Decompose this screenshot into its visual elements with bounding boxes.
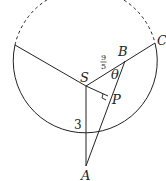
label-SA-length: 3 [74, 118, 82, 132]
segment-S-P [86, 86, 108, 96]
geometry-diagram: S B C P A θ 3 9 5 [0, 0, 166, 181]
segment-L-S [15, 45, 86, 86]
label-SB-denominator: 5 [101, 62, 106, 71]
label-SB-numerator: 9 [101, 53, 106, 62]
label-theta: θ [111, 67, 119, 82]
label-P: P [111, 92, 121, 107]
label-C: C [157, 33, 166, 48]
label-S: S [80, 70, 89, 85]
circle-dashed-arc [15, 0, 155, 45]
label-A: A [80, 168, 90, 181]
segment-A-B [86, 61, 125, 166]
label-B: B [117, 44, 128, 59]
